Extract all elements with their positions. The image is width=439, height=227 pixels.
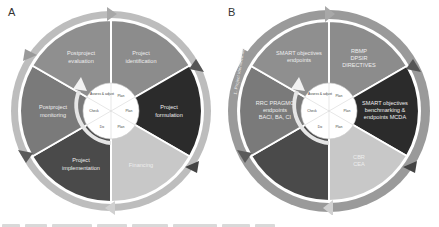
svg-text:CEA: CEA [353, 161, 365, 167]
svg-text:formulation: formulation [155, 112, 183, 118]
svg-text:endpoints MCDA: endpoints MCDA [364, 114, 407, 120]
svg-text:evaluation: evaluation [68, 58, 94, 64]
svg-text:Assess & adjust: Assess & adjust [90, 92, 114, 96]
svg-text:SMART objectives: SMART objectives [362, 100, 408, 106]
panel-b: B 1. Project identification 2. Project f… [220, 0, 439, 215]
svg-text:Assess & adjust: Assess & adjust [308, 92, 332, 96]
svg-text:Postproject: Postproject [39, 104, 67, 110]
panel-a: A Plan [0, 0, 219, 215]
svg-text:endpoints: endpoints [263, 107, 287, 113]
svg-text:Plan: Plan [126, 109, 133, 113]
svg-text:Postproject: Postproject [67, 50, 95, 56]
svg-text:Check: Check [89, 109, 99, 113]
svg-text:Check: Check [307, 109, 317, 113]
svg-text:Do: Do [318, 125, 322, 129]
svg-text:Plan: Plan [118, 94, 125, 98]
svg-text:BACI, BA, CI: BACI, BA, CI [259, 114, 292, 120]
figure-caption-placeholder [2, 216, 437, 222]
svg-text:DIRECTIVES: DIRECTIVES [342, 62, 376, 68]
svg-text:DPSIR: DPSIR [350, 55, 367, 61]
svg-text:Project: Project [72, 157, 90, 163]
svg-text:RBMP: RBMP [351, 48, 367, 54]
svg-text:identification: identification [125, 58, 156, 64]
svg-text:Plan: Plan [118, 125, 125, 129]
svg-text:endpoints: endpoints [287, 57, 311, 63]
svg-text:Plan: Plan [336, 125, 343, 129]
svg-text:Financing: Financing [129, 162, 153, 168]
svg-text:benchmarking &: benchmarking & [365, 107, 406, 113]
cycle-diagram-a: Plan Plan Plan Do Check Assess & adjust … [0, 0, 219, 215]
svg-text:implementation: implementation [62, 165, 100, 171]
cycle-diagram-b: 1. Project identification 2. Project for… [220, 0, 439, 215]
svg-text:RRC PRAGMO: RRC PRAGMO [256, 100, 295, 106]
svg-text:Plan: Plan [336, 94, 343, 98]
svg-text:monitoring: monitoring [40, 112, 66, 118]
svg-text:Project: Project [132, 50, 150, 56]
svg-text:Plan: Plan [344, 109, 351, 113]
svg-text:Project: Project [160, 104, 178, 110]
svg-text:SMART objectives: SMART objectives [276, 50, 322, 56]
svg-text:Do: Do [100, 125, 104, 129]
svg-text:CBR: CBR [353, 154, 365, 160]
